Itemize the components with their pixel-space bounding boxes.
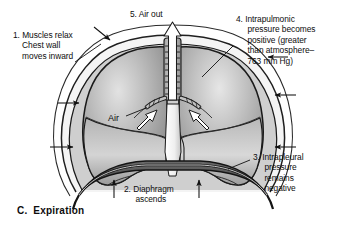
figure-caption: C. Expiration: [17, 206, 84, 216]
label-air: Air: [108, 113, 119, 123]
label-air-out: 5. Air out: [130, 9, 163, 19]
label-muscles-relax: 1. Muscles relax Chest wall moves inward: [13, 30, 73, 61]
label-intrapleural: 3. Intrapleural pressure remains negativ…: [253, 152, 303, 194]
label-intrapulmonic: 4. Intrapulmonic pressure becomes positi…: [236, 14, 315, 66]
label-diaphragm-ascends: 2. Diaphragm ascends: [124, 184, 174, 205]
